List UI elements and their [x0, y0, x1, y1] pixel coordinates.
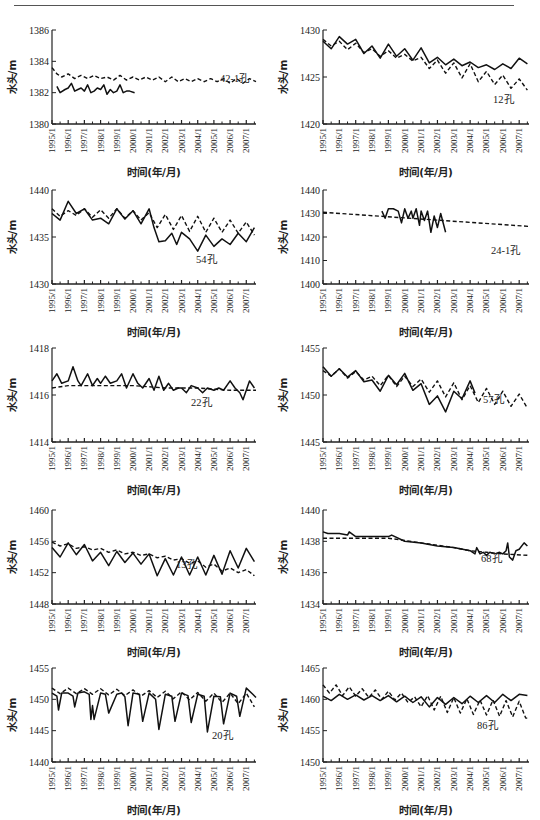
chart-panel-20: 14401445145014551995/11996/11997/11998/1… — [7, 660, 281, 820]
y-tick-label: 1450 — [300, 390, 320, 401]
axes: 1414141614181995/11996/11997/11998/11999… — [6, 343, 256, 497]
x-tick-label: 1998/1 — [367, 446, 377, 471]
y-axis-title: 水头/m — [6, 540, 18, 576]
x-tick-label: 1999/1 — [383, 608, 393, 633]
x-tick-label: 1998/1 — [96, 608, 106, 633]
x-tick-label: 1995/1 — [318, 446, 328, 471]
x-tick-label: 2005/1 — [481, 766, 491, 791]
x-axis-title: 时间(年/月) — [127, 166, 180, 178]
x-tick-label: 2007/1 — [514, 128, 524, 153]
y-tick-label: 1384 — [29, 56, 49, 67]
well-label: 86孔 — [477, 719, 499, 731]
x-tick-label: 2007/1 — [241, 446, 251, 471]
x-tick-label: 1995/1 — [318, 128, 328, 153]
x-tick-label: 2002/1 — [160, 608, 170, 633]
x-tick-label: 1998/1 — [367, 766, 377, 791]
y-tick-label: 1416 — [29, 390, 49, 401]
simulated-line — [323, 685, 529, 718]
x-tick-label: 1996/1 — [63, 608, 73, 633]
x-tick-label: 2005/1 — [209, 128, 219, 153]
y-tick-label: 1430 — [29, 279, 49, 290]
x-tick-label: 1999/1 — [383, 766, 393, 791]
y-tick-label: 1380 — [29, 119, 49, 130]
x-tick-label: 2000/1 — [128, 288, 138, 313]
chart-panel-86: 14501455146014651995/11996/11997/11998/1… — [278, 660, 540, 820]
observed-line — [323, 367, 475, 412]
y-tick-label: 1455 — [300, 725, 320, 736]
x-tick-label: 2005/1 — [481, 288, 491, 313]
y-axis-title: 水头/m — [6, 698, 18, 734]
y-tick-label: 1420 — [300, 119, 320, 130]
x-tick-label: 2005/1 — [209, 446, 219, 471]
y-axis-title: 水头/m — [6, 378, 18, 414]
observed-line — [52, 367, 254, 400]
y-tick-label: 1430 — [300, 25, 320, 36]
y-axis-title: 水头/m — [277, 540, 289, 576]
y-axis-title: 水头/m — [277, 698, 289, 734]
x-tick-label: 2004/1 — [193, 766, 203, 791]
x-tick-label: 2000/1 — [400, 766, 410, 791]
x-tick-label: 2004/1 — [465, 128, 475, 153]
x-tick-label: 1998/1 — [367, 288, 377, 313]
y-tick-label: 1445 — [29, 725, 49, 736]
axes: 1445145014551995/11996/11997/11998/11999… — [277, 343, 529, 497]
x-tick-label: 1995/1 — [47, 128, 57, 153]
chart-panel-68: 14341436143814401995/11996/11997/11998/1… — [278, 502, 540, 666]
x-tick-label: 2000/1 — [128, 128, 138, 153]
x-tick-label: 2006/1 — [498, 128, 508, 153]
x-axis-title: 时间(年/月) — [399, 326, 452, 338]
x-axis-title: 时间(年/月) — [127, 646, 180, 658]
y-tick-label: 1445 — [300, 437, 320, 448]
y-tick-label: 1386 — [29, 25, 49, 36]
x-tick-label: 1996/1 — [334, 128, 344, 153]
x-tick-label: 2000/1 — [400, 288, 410, 313]
y-axis-title: 水头/m — [6, 220, 18, 256]
axes: 140014101420143014401995/11996/11997/119… — [277, 185, 529, 339]
well-label: 24-1孔 — [491, 244, 521, 256]
x-tick-label: 2002/1 — [432, 128, 442, 153]
well-label: 12孔 — [493, 93, 515, 105]
x-tick-label: 2006/1 — [225, 288, 235, 313]
x-tick-label: 2007/1 — [241, 608, 251, 633]
x-tick-label: 2005/1 — [209, 608, 219, 633]
x-tick-label: 1995/1 — [318, 608, 328, 633]
y-tick-label: 1425 — [300, 72, 320, 83]
x-tick-label: 2006/1 — [498, 608, 508, 633]
y-tick-label: 1438 — [300, 536, 320, 547]
y-tick-label: 1418 — [29, 343, 49, 354]
x-tick-label: 2003/1 — [177, 766, 187, 791]
x-tick-label: 2006/1 — [498, 288, 508, 313]
x-tick-label: 1999/1 — [112, 128, 122, 153]
y-tick-label: 1400 — [300, 279, 320, 290]
chart-panel-12: 1420142514301995/11996/11997/11998/11999… — [278, 22, 540, 186]
chart-panel-54: 1430143514401995/11996/11997/11998/11999… — [7, 182, 281, 346]
x-tick-label: 1997/1 — [79, 766, 89, 791]
x-tick-label: 2006/1 — [225, 608, 235, 633]
y-tick-label: 1455 — [300, 343, 320, 354]
x-tick-label: 2005/1 — [481, 446, 491, 471]
x-tick-label: 2004/1 — [465, 446, 475, 471]
y-tick-label: 1465 — [300, 663, 320, 674]
x-tick-label: 1995/1 — [318, 766, 328, 791]
x-axis-title: 时间(年/月) — [127, 804, 180, 816]
x-tick-label: 2003/1 — [449, 128, 459, 153]
x-tick-label: 1998/1 — [96, 766, 106, 791]
x-tick-label: 1997/1 — [351, 128, 361, 153]
chart-panel-13: 14481452145614601995/11996/11997/11998/1… — [7, 502, 281, 666]
x-tick-label: 1999/1 — [383, 288, 393, 313]
axes: 14501455146014651995/11996/11997/11998/1… — [277, 663, 529, 817]
x-tick-label: 2002/1 — [432, 608, 442, 633]
x-tick-label: 1999/1 — [383, 446, 393, 471]
x-tick-label: 2001/1 — [416, 446, 426, 471]
y-tick-label: 1440 — [29, 757, 49, 768]
x-tick-label: 2001/1 — [416, 608, 426, 633]
y-tick-label: 1440 — [29, 185, 49, 196]
x-tick-label: 1999/1 — [112, 288, 122, 313]
x-tick-label: 2007/1 — [514, 446, 524, 471]
x-tick-label: 2005/1 — [209, 766, 219, 791]
well-label: 42-1孔 — [220, 72, 250, 84]
x-tick-label: 2004/1 — [465, 766, 475, 791]
x-tick-label: 2000/1 — [400, 128, 410, 153]
axes: 14481452145614601995/11996/11997/11998/1… — [6, 505, 256, 659]
x-tick-label: 2000/1 — [128, 446, 138, 471]
